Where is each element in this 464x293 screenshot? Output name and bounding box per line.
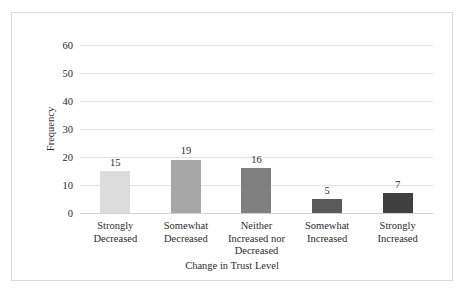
y-axis-tick-label: 30 [63,124,74,135]
bar-value-label: 15 [110,158,121,169]
bar[interactable]: 5 [312,199,342,213]
x-axis-tick-label-line: Increased [355,233,441,246]
bar-value-label: 5 [324,186,329,197]
x-axis-title: Change in Trust Level [12,260,452,271]
y-axis-title: Frequency [45,107,56,151]
bar-slot: 15 [80,45,151,213]
x-axis-tick-label: StronglyIncreased [355,220,441,245]
y-axis-tick-label: 10 [63,180,74,191]
y-axis-tick-label: 60 [63,40,74,51]
bar-slot: 5 [292,45,363,213]
bar-value-label: 16 [251,155,262,166]
bar[interactable]: 16 [241,168,271,213]
bar-value-label: 7 [395,180,400,191]
plot-area: 0102030405060 15191657 [80,45,433,213]
bar[interactable]: 7 [383,193,413,213]
x-axis-tick-label-line: Decreased [214,245,300,258]
bar-value-label: 19 [181,146,192,157]
bar-slot: 7 [362,45,433,213]
chart-frame: Frequency 0102030405060 15191657 Strongl… [11,12,453,281]
y-axis-tick-label: 40 [63,96,74,107]
y-axis-tick-label: 20 [63,152,74,163]
bar[interactable]: 19 [171,160,201,213]
bar-slot: 16 [221,45,292,213]
y-axis-tick-label: 50 [63,68,74,79]
bar[interactable]: 15 [100,171,130,213]
bar-slot: 19 [151,45,222,213]
x-axis-tick-label-line: Strongly [355,220,441,233]
y-axis-tick-label: 0 [68,208,73,219]
axis-baseline [80,213,433,214]
